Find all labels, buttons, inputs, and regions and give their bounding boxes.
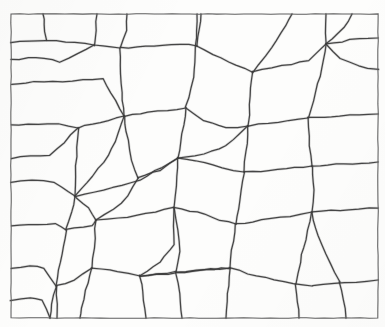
boundary-edge [197, 46, 252, 72]
boundary-edge [230, 224, 235, 268]
boundary-edge-shadow [10, 298, 50, 318]
boundary-edge-shadow [11, 128, 78, 159]
boundary-edge-shadow [326, 44, 379, 69]
figure-root [0, 0, 385, 327]
boundary-edge-shadow [309, 14, 326, 118]
boundary-edge [178, 126, 248, 158]
boundary-edge [125, 116, 138, 178]
boundary-edge-shadow [178, 126, 248, 158]
boundary-edge-shadow [140, 208, 174, 276]
boundary-edge-shadow [12, 79, 124, 116]
boundary-edge-shadow [96, 178, 138, 220]
grain-boundary-diagram [0, 0, 385, 327]
boundary-edge [236, 172, 244, 224]
boundary-edge [173, 207, 236, 224]
boundary-edge [75, 116, 124, 196]
boundary-edge [326, 44, 379, 69]
boundary-edge [96, 178, 138, 220]
boundary-edge-shadow [178, 158, 244, 172]
boundary-edge-shadow [75, 116, 124, 196]
boundary-edge-shadow [125, 116, 138, 178]
boundary-edge-shadow [312, 212, 340, 282]
boundary-edge [313, 280, 378, 286]
boundary-edge [187, 108, 248, 127]
boundary-edge [12, 224, 66, 230]
boundary-edge-shadow [57, 268, 92, 285]
boundary-edge [11, 180, 75, 196]
boundary-edge [244, 166, 312, 172]
boundary-edge [11, 128, 78, 159]
boundary-edge [312, 212, 340, 282]
boundary-line-layer [10, 14, 378, 318]
boundary-edge [185, 14, 197, 107]
boundary-edge [56, 230, 67, 286]
boundary-edge [10, 298, 50, 318]
boundary-edge-shadow [11, 180, 75, 196]
boundary-edge [296, 212, 312, 284]
